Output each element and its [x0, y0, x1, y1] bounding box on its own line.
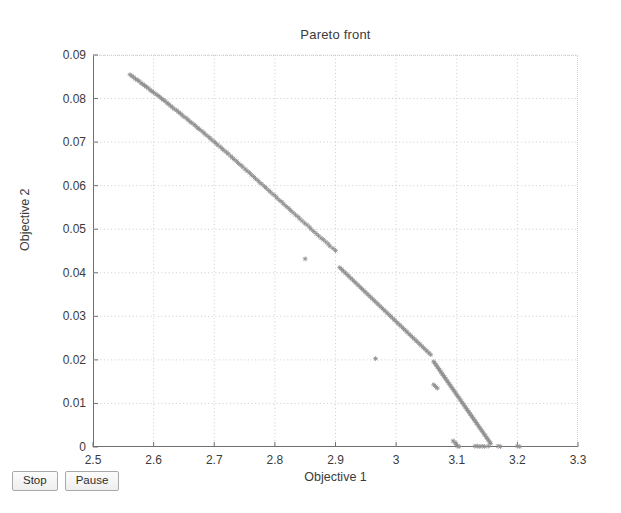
x-tick-label: 2.5	[85, 453, 102, 467]
y-tick-label: 0.01	[63, 396, 86, 410]
button-bar: Stop Pause	[12, 471, 119, 491]
pause-button[interactable]: Pause	[65, 471, 120, 491]
y-tick-label: 0.08	[63, 92, 86, 106]
y-tick-label: 0.07	[63, 135, 86, 149]
y-tick-label: 0	[79, 440, 86, 454]
stop-button[interactable]: Stop	[12, 471, 58, 491]
y-tick-label: 0.09	[63, 48, 86, 62]
plot-axes: 00.010.020.030.040.050.060.070.080.09 2.…	[93, 55, 578, 447]
page-title: Pareto front	[93, 27, 578, 42]
y-tick-label: 0.03	[63, 309, 86, 323]
figure-window: Pareto front 00.010.020.030.040.050.060.…	[0, 0, 621, 513]
x-tick-label: 3.3	[570, 453, 587, 467]
x-tick-label: 2.9	[327, 453, 344, 467]
x-tick-label: 2.7	[206, 453, 223, 467]
x-axis-label: Objective 1	[93, 470, 578, 484]
y-tick-label: 0.06	[63, 179, 86, 193]
x-tick-label: 3.1	[448, 453, 465, 467]
x-tick-label: 3.2	[509, 453, 526, 467]
y-axis-label: Objective 2	[18, 188, 32, 251]
y-tick-label: 0.02	[63, 353, 86, 367]
y-tick-label: 0.05	[63, 222, 86, 236]
y-tick-label: 0.04	[63, 266, 86, 280]
x-tick-label: 2.8	[267, 453, 284, 467]
x-tick-label: 2.6	[145, 453, 162, 467]
scatter-series	[93, 55, 578, 447]
x-tick-label: 3	[393, 453, 400, 467]
